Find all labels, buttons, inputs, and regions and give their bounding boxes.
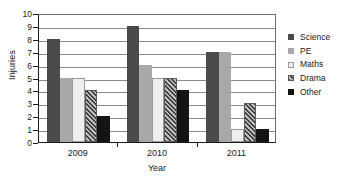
legend-item-drama[interactable]: Drama: [288, 74, 330, 83]
bar-other-2010: [177, 90, 190, 142]
bar-maths-2010: [152, 78, 165, 143]
bar-science-2011: [206, 52, 219, 142]
bar-group: [39, 15, 118, 142]
x-axis-ticks: 200920102011: [38, 143, 276, 163]
bar-drama-2010: [164, 78, 177, 143]
plot-area: [38, 14, 276, 143]
legend-item-maths[interactable]: Maths: [288, 60, 330, 69]
legend-label: Other: [300, 88, 321, 97]
y-tick-label: 5: [2, 74, 32, 84]
bar-group: [198, 15, 277, 142]
legend-item-science[interactable]: Science: [288, 33, 330, 42]
bar-group: [118, 15, 197, 142]
bar-pe-2011: [219, 52, 232, 142]
y-tick-label: 9: [2, 22, 32, 32]
y-tick-label: 8: [2, 35, 32, 45]
bars-layer: [39, 15, 275, 142]
legend-label: PE: [300, 47, 311, 56]
bar-science-2009: [47, 39, 60, 142]
bar-pe-2010: [139, 65, 152, 142]
bar-maths-2009: [72, 78, 85, 143]
y-tick-label: 10: [2, 9, 32, 19]
legend-item-pe[interactable]: PE: [288, 47, 330, 56]
legend-label: Drama: [300, 74, 326, 83]
legend-swatch-icon: [288, 89, 294, 95]
y-tick-label: 7: [2, 48, 32, 58]
bar-chart: Injuries 012345678910 200920102011 Year …: [0, 0, 355, 180]
x-tick-label: 2010: [147, 148, 167, 158]
bar-other-2009: [97, 116, 110, 142]
legend-label: Science: [300, 33, 330, 42]
bar-science-2010: [127, 26, 140, 142]
y-tick-label: 4: [2, 86, 32, 96]
bar-drama-2009: [85, 90, 98, 142]
bar-pe-2009: [60, 78, 73, 143]
legend-item-other[interactable]: Other: [288, 88, 330, 97]
y-tick-label: 6: [2, 61, 32, 71]
y-tick-label: 0: [2, 138, 32, 148]
y-tick-label: 2: [2, 112, 32, 122]
x-tick-label: 2009: [68, 148, 88, 158]
legend-swatch-icon: [288, 48, 294, 54]
bar-other-2011: [256, 129, 269, 142]
bar-maths-2011: [231, 129, 244, 142]
legend-swatch-icon: [288, 34, 294, 40]
y-axis-ticks: 012345678910: [0, 0, 38, 143]
legend-swatch-icon: [288, 62, 294, 68]
legend: SciencePEMathsDramaOther: [288, 33, 330, 96]
x-tick-mark: [117, 143, 118, 147]
x-tick-label: 2011: [227, 148, 246, 158]
legend-swatch-icon: [288, 75, 294, 81]
x-tick-mark: [197, 143, 198, 147]
y-tick-label: 1: [2, 125, 32, 135]
y-tick-label: 3: [2, 99, 32, 109]
bar-drama-2011: [244, 103, 257, 142]
x-axis-title: Year: [38, 163, 276, 173]
legend-label: Maths: [300, 60, 323, 69]
